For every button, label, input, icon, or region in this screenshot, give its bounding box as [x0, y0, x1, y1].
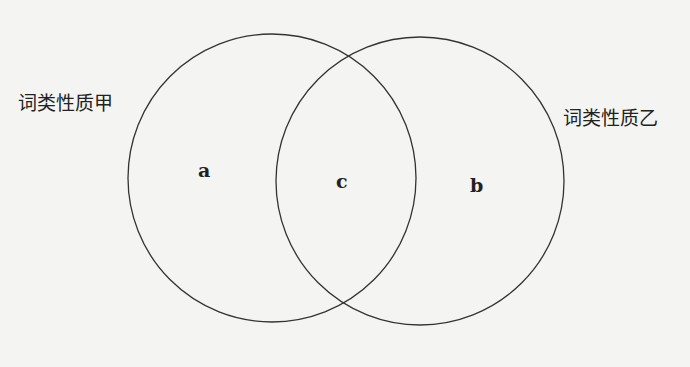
region-label-a: a — [198, 159, 210, 181]
region-label-b: b — [470, 174, 483, 196]
venn-diagram: 词类性质甲 词类性质乙 a c b — [0, 0, 690, 367]
set-circle-right — [276, 37, 564, 325]
set-circle-left — [128, 34, 416, 322]
region-label-c: c — [336, 170, 348, 192]
set-label-right: 词类性质乙 — [563, 107, 658, 129]
set-label-left: 词类性质甲 — [18, 92, 113, 114]
